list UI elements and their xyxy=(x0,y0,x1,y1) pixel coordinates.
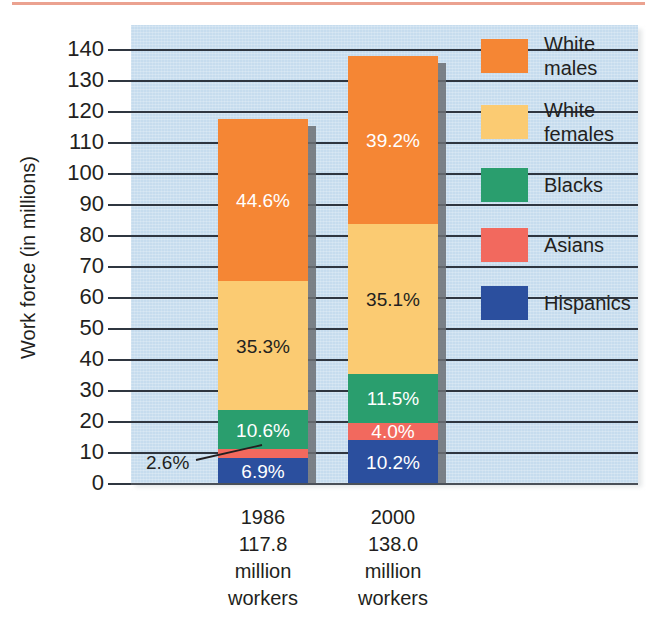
legend-label: White females xyxy=(544,98,614,146)
x-axis-label-line: workers xyxy=(313,585,473,612)
legend-label: Hispanics xyxy=(544,291,631,315)
legend-item-hispanics[interactable]: Hispanics xyxy=(481,286,631,320)
x-axis-label-line: 138.0 xyxy=(313,531,473,558)
legend-item-blacks[interactable]: Blacks xyxy=(481,168,603,202)
x-axis-label-line: 2000 xyxy=(313,504,473,531)
legend-swatch xyxy=(481,286,528,320)
legend-label: Blacks xyxy=(544,173,603,197)
legend-item-asians[interactable]: Asians xyxy=(481,228,604,262)
asians-1986-callout-label: 2.6% xyxy=(146,452,189,474)
x-axis-label-line: million xyxy=(313,558,473,585)
legend-label: White males xyxy=(544,32,597,80)
legend-label: Asians xyxy=(544,233,604,257)
legend-swatch xyxy=(481,168,528,202)
legend-item-white-females[interactable]: White females xyxy=(481,98,614,146)
chart-figure: 0102030405060708090100110120130140 Work … xyxy=(0,0,669,627)
legend-swatch xyxy=(481,228,528,262)
legend-swatch xyxy=(481,39,528,73)
legend-swatch xyxy=(481,105,528,139)
legend-item-white-males[interactable]: White males xyxy=(481,32,597,80)
x-axis-label-2000: 2000138.0millionworkers xyxy=(313,504,473,612)
